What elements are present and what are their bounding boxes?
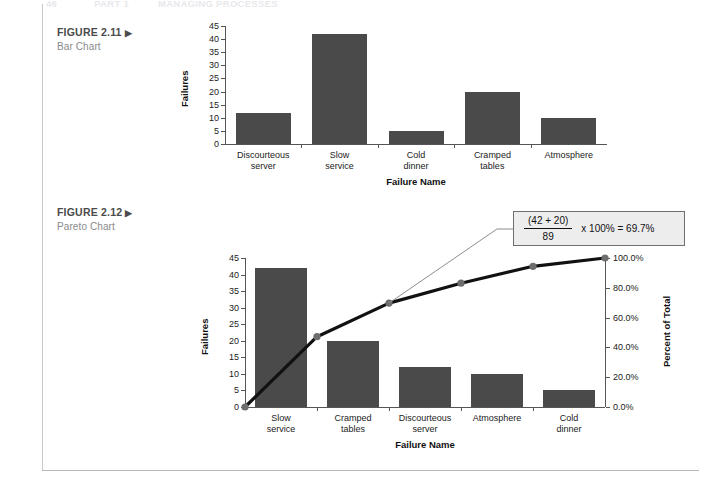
- y-axis-tick: [221, 131, 225, 132]
- y-axis-tick: [221, 92, 225, 93]
- x-axis-tick: [454, 144, 455, 148]
- y-axis-tick-label: 5: [193, 127, 219, 136]
- running-head-title: MANAGING PROCESSES: [158, 0, 278, 9]
- figure-caption-2-12: FIGURE 2.12▶ Pareto Chart: [57, 206, 197, 232]
- callout-numerator: (42 + 20): [524, 215, 572, 227]
- page-frame-bottom-rule: [42, 470, 699, 471]
- book-page: 46 PART 1 MANAGING PROCESSES FIGURE 2.11…: [0, 0, 705, 484]
- figure-number: FIGURE 2.11: [57, 26, 122, 38]
- bar: [465, 92, 520, 144]
- y-axis-tick-label: 40: [193, 35, 219, 44]
- y-axis-tick: [221, 52, 225, 53]
- bar-chart-2-11: 454035302520151050FailuresDiscourteous s…: [185, 20, 625, 190]
- y-axis-tick-label: 15: [193, 101, 219, 110]
- bar: [389, 131, 444, 144]
- callout-fraction: (42 + 20) 89: [524, 215, 572, 242]
- x-axis-category-label: Cold dinner: [378, 150, 454, 172]
- y-axis-tick-label: 25: [193, 74, 219, 83]
- bar: [312, 34, 367, 144]
- running-head: 46 PART 1 MANAGING PROCESSES: [46, 0, 666, 12]
- y-axis-tick: [221, 105, 225, 106]
- caption-arrow-icon: ▶: [125, 208, 132, 218]
- x-axis-title: Failure Name: [225, 176, 607, 187]
- line-marker: [601, 254, 608, 261]
- x-axis-tick: [301, 144, 302, 148]
- y-axis-tick: [221, 39, 225, 40]
- y-axis-tick: [221, 78, 225, 79]
- y-axis-line: [225, 26, 226, 144]
- y-axis-tick-label: 45: [193, 22, 219, 31]
- caption-arrow-icon: ▶: [125, 28, 132, 38]
- y-axis-tick: [221, 65, 225, 66]
- y-axis-tick: [221, 118, 225, 119]
- figure-number: FIGURE 2.12: [57, 206, 122, 218]
- page-frame-left-rule: [42, 4, 43, 471]
- figure-caption-subtitle: Pareto Chart: [57, 221, 197, 232]
- callout-denominator: 89: [524, 230, 572, 242]
- y-axis-tick-label: 10: [193, 114, 219, 123]
- x-axis-line: [225, 144, 607, 145]
- y-axis-tick: [221, 144, 225, 145]
- figure-caption-title: FIGURE 2.11▶: [57, 26, 197, 38]
- figure-caption-2-11: FIGURE 2.11▶ Bar Chart: [57, 26, 197, 52]
- line-marker: [385, 300, 392, 307]
- y-axis-title: Failures: [179, 71, 190, 107]
- pareto-chart-2-12: 454035302520151050FailuresSlow serviceCr…: [195, 250, 695, 465]
- line-marker: [529, 263, 536, 270]
- line-marker: [241, 403, 248, 410]
- x-axis-category-label: Slow service: [301, 150, 377, 172]
- x-axis-tick: [531, 144, 532, 148]
- y-axis-tick-label: 20: [193, 88, 219, 97]
- callout-expression: x 100% = 69.7%: [581, 223, 654, 234]
- y-axis-tick-label: 30: [193, 61, 219, 70]
- cumulative-percent-line: [195, 250, 695, 465]
- x-axis-tick: [378, 144, 379, 148]
- y-axis-tick-label: 35: [193, 48, 219, 57]
- bar: [541, 118, 596, 144]
- fraction-bar: [524, 228, 572, 229]
- running-head-page-number: 46: [46, 0, 57, 9]
- callout-box: (42 + 20) 89 x 100% = 69.7%: [513, 211, 685, 246]
- line-marker: [457, 280, 464, 287]
- x-axis-category-label: Discourteous server: [225, 150, 301, 172]
- x-axis-category-label: Cramped tables: [454, 150, 530, 172]
- figure-caption-title: FIGURE 2.12▶: [57, 206, 197, 218]
- y-axis-tick-label: 0: [193, 140, 219, 149]
- x-axis-category-label: Atmosphere: [531, 150, 607, 161]
- y-axis-tick: [221, 26, 225, 27]
- line-marker: [313, 333, 320, 340]
- running-head-part: PART 1: [94, 0, 129, 9]
- figure-caption-subtitle: Bar Chart: [57, 41, 197, 52]
- bar: [236, 113, 291, 145]
